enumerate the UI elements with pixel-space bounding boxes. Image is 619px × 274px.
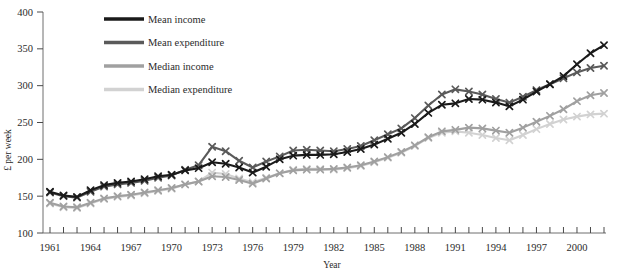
x-tick-label: 1982 — [323, 242, 344, 253]
x-tick-label: 1961 — [40, 242, 61, 253]
data-point-marker — [574, 61, 580, 67]
y-tick-label: 350 — [17, 43, 33, 54]
chart-container: 100150200250300350400 196119641967197019… — [0, 0, 619, 274]
data-point-marker — [412, 115, 418, 121]
series-line — [50, 66, 604, 198]
y-tick-label: 200 — [17, 154, 33, 165]
income-expenditure-line-chart: 100150200250300350400 196119641967197019… — [0, 0, 619, 274]
x-tick-label: 1979 — [283, 242, 304, 253]
y-tick-label: 100 — [17, 228, 33, 239]
data-point-marker — [587, 50, 593, 56]
series-mean-expenditure — [47, 63, 607, 201]
x-tick-label: 1973 — [202, 242, 223, 253]
legend-label: Mean income — [148, 14, 206, 25]
data-point-marker — [601, 42, 607, 48]
legend-item[interactable]: Mean expenditure — [104, 37, 224, 48]
data-point-marker — [425, 102, 431, 108]
series-line — [50, 45, 604, 197]
y-tick-label: 400 — [17, 7, 33, 18]
data-point-marker — [425, 110, 431, 116]
x-tick-label: 1985 — [364, 242, 385, 253]
x-tick-label: 1991 — [445, 242, 466, 253]
legend-label: Median income — [148, 61, 214, 72]
legend-label: Mean expenditure — [148, 37, 224, 48]
data-point-marker — [412, 121, 418, 127]
legend-item[interactable]: Mean income — [104, 14, 206, 25]
chart-legend: Mean incomeMean expenditureMedian income… — [104, 14, 233, 96]
y-tick-label: 300 — [17, 80, 33, 91]
x-tick-label: 2000 — [566, 242, 587, 253]
legend-item[interactable]: Median expenditure — [104, 84, 233, 95]
y-axis-title: £ per week — [3, 129, 13, 171]
x-tick-label: 1994 — [485, 242, 507, 253]
x-tick-label: 1988 — [404, 242, 425, 253]
legend-label: Median expenditure — [148, 84, 233, 95]
y-tick-label: 150 — [17, 191, 33, 202]
x-tick-label: 1970 — [161, 242, 182, 253]
y-axis: 100150200250300350400 — [17, 7, 43, 239]
x-axis: 1961196419671970197319761979198219851988… — [40, 227, 607, 253]
x-tick-label: 1997 — [526, 242, 547, 253]
y-tick-label: 250 — [17, 117, 33, 128]
x-tick-label: 1967 — [121, 242, 142, 253]
legend-item[interactable]: Median income — [104, 61, 214, 72]
x-axis-title: Year — [323, 260, 341, 270]
x-tick-label: 1976 — [242, 242, 263, 253]
x-tick-label: 1964 — [80, 242, 102, 253]
